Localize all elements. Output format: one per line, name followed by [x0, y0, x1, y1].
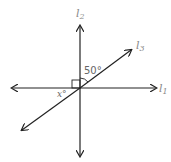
angle-arc-50 [80, 78, 88, 82]
angle-label-50: 50° [84, 65, 102, 76]
line-l3-bottom [22, 88, 80, 130]
angle-label-x: x° [57, 89, 67, 99]
label-l2: l2 [76, 7, 85, 21]
lines-angles-diagram: l2 l3 l1 50° x° [0, 0, 171, 162]
label-l1: l1 [159, 82, 168, 96]
right-angle-marker [72, 80, 80, 88]
label-l3: l3 [136, 39, 145, 53]
